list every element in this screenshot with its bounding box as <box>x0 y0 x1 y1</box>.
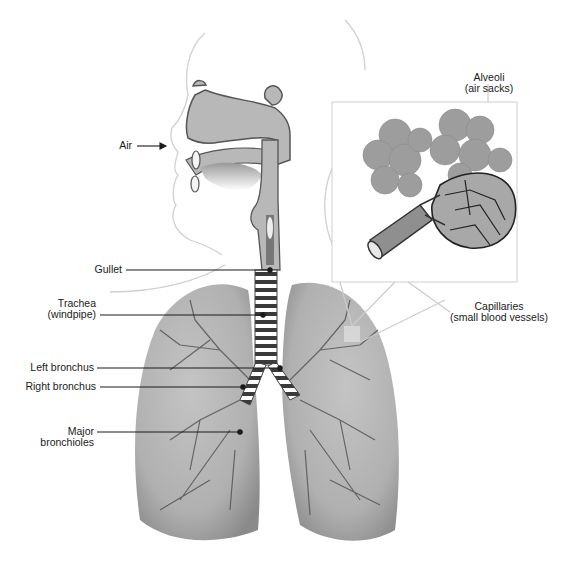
label-air: Air <box>100 140 132 151</box>
magnified-region <box>344 326 360 342</box>
label-gullet: Gullet <box>60 264 122 275</box>
label-left-bronchus: Left bronchus <box>10 362 94 373</box>
label-gullet-text: Gullet <box>60 264 122 275</box>
label-trachea: Trachea (windpipe) <box>30 298 96 320</box>
label-bronchioles: Major bronchioles <box>20 426 94 448</box>
label-capillaries: Capillaries (small blood vessels) <box>440 301 558 323</box>
label-right-bronchus-text: Right bronchus <box>10 381 96 392</box>
capillary-network <box>432 173 516 248</box>
right-lung <box>282 283 399 541</box>
label-alveoli: Alveoli (air sacks) <box>455 72 523 94</box>
label-capillaries-line2: (small blood vessels) <box>440 312 558 323</box>
label-left-bronchus-text: Left bronchus <box>10 362 94 373</box>
label-air-text: Air <box>100 140 132 151</box>
label-alveoli-line2: (air sacks) <box>455 83 523 94</box>
label-right-bronchus: Right bronchus <box>10 381 96 392</box>
oral-cavity <box>186 148 270 192</box>
label-trachea-line2: (windpipe) <box>30 309 96 320</box>
label-bronchioles-line2: bronchioles <box>20 437 94 448</box>
alveoli-inset <box>332 102 517 282</box>
